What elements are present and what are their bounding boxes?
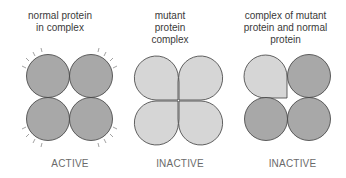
mutant-protein-complex <box>134 56 222 145</box>
mutant-subunit <box>244 55 287 98</box>
protein-complex-diagram <box>0 0 346 178</box>
status-active: ACTIVE <box>0 158 140 169</box>
status-inactive-mixed: INACTIVE <box>232 158 346 169</box>
status-inactive-mutant: INACTIVE <box>125 158 235 169</box>
mixed-protein-complex <box>244 55 330 141</box>
normal-protein-complex <box>27 55 113 141</box>
